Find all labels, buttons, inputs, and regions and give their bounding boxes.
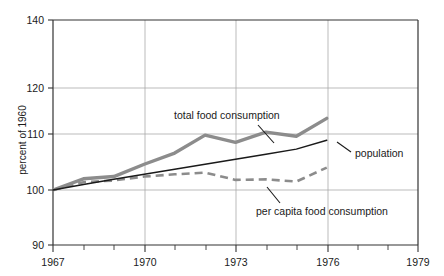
ytick-label-140: 140 bbox=[26, 14, 44, 26]
annotation-per-capita-food-consumption: per capita food consumption bbox=[256, 205, 388, 217]
ytick-label-100: 100 bbox=[26, 184, 44, 196]
line-chart: 140 120 110 100 90 percent of 1960 1967 bbox=[0, 0, 444, 276]
annotation-total-food-consumption: total food consumption bbox=[174, 109, 280, 121]
ytick-label-110: 110 bbox=[27, 128, 44, 140]
annotation-population: population bbox=[355, 147, 404, 159]
ytick-label-120: 120 bbox=[26, 82, 44, 94]
ytick-label-90: 90 bbox=[32, 239, 44, 251]
xtick-label-1967: 1967 bbox=[41, 256, 65, 268]
xtick-label-1976: 1976 bbox=[316, 256, 340, 268]
xtick-label-1973: 1973 bbox=[224, 256, 248, 268]
xtick-label-1979: 1979 bbox=[406, 256, 430, 268]
y-axis-title: percent of 1960 bbox=[17, 105, 28, 175]
chart-container: 140 120 110 100 90 percent of 1960 1967 bbox=[0, 0, 444, 276]
xtick-label-1970: 1970 bbox=[133, 256, 157, 268]
